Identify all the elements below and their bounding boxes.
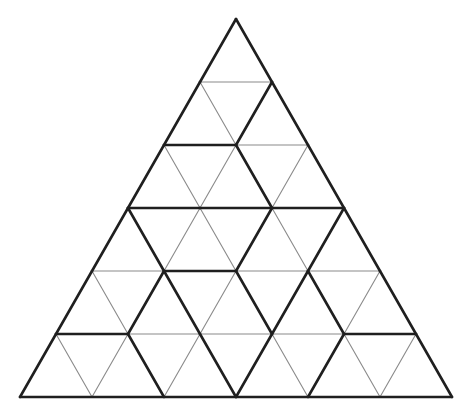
grid-edge-down-right [236,145,272,208]
grid-edge-down-left [272,271,308,334]
grid-edge-down-left [200,145,236,208]
grid-edge-down-left [128,145,164,208]
grid-edge-down-right [164,271,200,334]
grid-edge-down-left [236,334,272,397]
grid-edge-down-right [200,208,236,271]
thick-piece-outlines [20,19,452,397]
grid-edge-down-left [164,208,200,271]
grid-edge-down-right [344,334,380,397]
grid-edge-down-left [200,19,236,82]
grid-edge-down-right [200,334,236,397]
grid-edge-down-left [200,271,236,334]
grid-edge-down-left [236,208,272,271]
grid-edge-down-right [272,82,308,145]
grid-edge-down-right [236,19,272,82]
grid-edge-down-right [56,334,92,397]
grid-edge-down-right [308,145,344,208]
grid-edge-down-left [380,334,416,397]
grid-edge-down-left [92,208,128,271]
grid-edge-down-right [164,145,200,208]
grid-edge-down-right [128,334,164,397]
grid-edge-down-right [92,271,128,334]
grid-edge-down-left [272,145,308,208]
grid-edge-down-left [308,334,344,397]
grid-edge-down-left [20,334,56,397]
grid-edge-down-right [236,271,272,334]
grid-edge-down-right [272,334,308,397]
grid-edge-down-right [344,208,380,271]
grid-edge-down-right [416,334,452,397]
grid-edge-down-left [344,271,380,334]
triangle-grid-diagram [0,0,476,416]
grid-edge-down-right [272,208,308,271]
grid-edge-down-right [128,208,164,271]
grid-edge-down-right [200,82,236,145]
grid-edge-down-left [308,208,344,271]
grid-edge-down-left [128,271,164,334]
grid-edge-down-left [56,271,92,334]
grid-edge-down-left [164,82,200,145]
grid-edge-down-right [380,271,416,334]
grid-edge-down-left [92,334,128,397]
grid-edge-down-left [236,82,272,145]
grid-edge-down-right [308,271,344,334]
grid-edge-down-left [164,334,200,397]
